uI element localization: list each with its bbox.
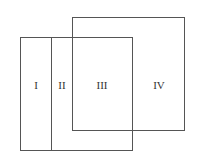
region-divider — [51, 37, 52, 151]
left-rect-bottom — [20, 150, 133, 151]
left-rect-right — [132, 37, 133, 151]
region-label-iii: III — [97, 79, 108, 91]
left-rect-top — [20, 37, 133, 38]
right-rect-left — [72, 17, 73, 131]
left-rect-left — [20, 37, 21, 151]
right-rect-top — [72, 17, 185, 18]
overlapping-rectangles-diagram: I II III IV — [0, 0, 202, 162]
right-rect-bottom — [72, 130, 185, 131]
region-label-iv: IV — [153, 79, 165, 91]
region-label-i: I — [34, 79, 38, 91]
region-label-ii: II — [58, 79, 65, 91]
right-rect-right — [184, 17, 185, 131]
